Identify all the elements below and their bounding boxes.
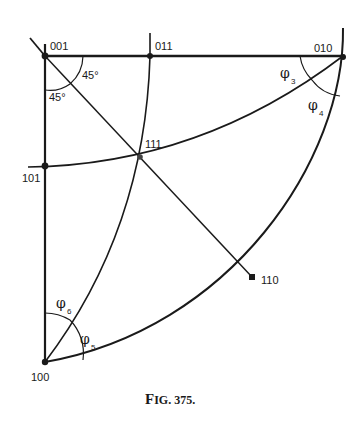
angle-label-45-upper: 45° (82, 69, 99, 81)
phi-5-symbol: φ (80, 331, 90, 347)
pole-011-dot (147, 53, 153, 59)
pole-010-label: 010 (314, 42, 332, 54)
phi-3-subscript: 3 (291, 77, 296, 86)
angle-label-45-lower: 45° (49, 91, 66, 103)
phi-6-subscript: 6 (67, 307, 72, 316)
pole-101-dot (42, 163, 49, 170)
pole-011-label: 011 (155, 40, 173, 52)
pole-001-label: 001 (50, 40, 68, 52)
pole-110-dot (249, 274, 255, 280)
stereographic-projection-diagram: 001 011 010 101 111 110 100 45° 45° φ 3 … (0, 0, 358, 426)
tick-001 (30, 38, 45, 56)
pole-111-label: 111 (145, 138, 162, 150)
phi-4-subscript: 4 (319, 109, 324, 118)
zone-101-010 (28, 56, 343, 167)
phi-3-symbol: φ (280, 65, 290, 81)
phi-4-symbol: φ (308, 97, 318, 113)
angle-arc-phi3 (300, 56, 312, 80)
figure-caption: FIG. 375. (145, 391, 195, 407)
pole-111-dot (137, 154, 143, 160)
pole-101-label: 101 (22, 172, 40, 184)
angle-arc-45-lower (45, 84, 70, 90)
phi-5-subscript: 5 (91, 343, 96, 352)
phi-6-symbol: φ (56, 295, 66, 311)
pole-100-dot (42, 359, 48, 365)
pole-001-dot (42, 53, 49, 60)
pole-110-label: 110 (261, 274, 279, 286)
pole-100-label: 100 (31, 371, 49, 383)
pole-010-dot (340, 54, 346, 60)
